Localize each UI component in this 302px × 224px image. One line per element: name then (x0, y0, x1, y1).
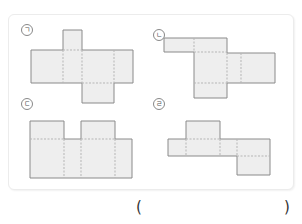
answer-blank[interactable] (146, 200, 281, 218)
cube-nets (0, 0, 302, 224)
answer-open-paren: ( (136, 198, 142, 216)
net-b (164, 38, 275, 98)
answer-close-paren: ) (284, 198, 290, 216)
net-a (31, 30, 133, 103)
net-c (30, 121, 132, 178)
net-d (168, 121, 270, 175)
